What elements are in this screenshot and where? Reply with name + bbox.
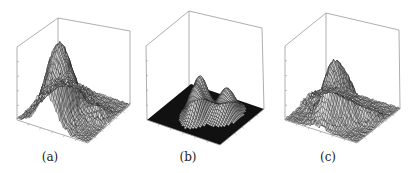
caption-c: (c) (308, 150, 348, 164)
surface-plot-c (0, 0, 417, 173)
panel-c (0, 0, 139, 173)
caption-a: (a) (30, 150, 70, 164)
caption-b: (b) (168, 150, 208, 164)
